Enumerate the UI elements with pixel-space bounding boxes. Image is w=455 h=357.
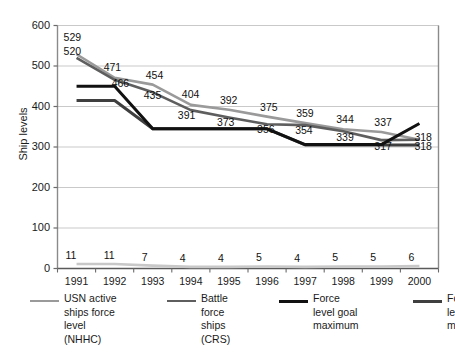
data-point-label: 317 bbox=[374, 140, 392, 152]
data-point-label: 4 bbox=[218, 252, 224, 264]
legend-label: USN active ships force level (NHHC) bbox=[64, 292, 159, 346]
series-line bbox=[77, 54, 420, 139]
legend-item[interactable]: Battle force ships (CRS) bbox=[167, 292, 271, 346]
data-point-label: 6 bbox=[408, 251, 414, 263]
y-tick-label: 200 bbox=[16, 181, 50, 193]
data-point-label: 318 bbox=[414, 140, 432, 152]
legend-item[interactable]: USN active ships force level (NHHC) bbox=[30, 292, 159, 346]
legend-swatch-icon bbox=[279, 295, 308, 305]
data-point-label: 435 bbox=[144, 89, 162, 101]
data-point-label: 11 bbox=[66, 249, 77, 261]
data-point-label: 11 bbox=[104, 249, 115, 261]
data-point-label: 5 bbox=[370, 251, 376, 263]
data-point-label: 466 bbox=[112, 77, 130, 89]
data-point-label: 404 bbox=[182, 88, 200, 100]
data-point-label: 337 bbox=[374, 116, 392, 128]
data-point-label: 520 bbox=[64, 45, 82, 57]
data-point-label: 5 bbox=[332, 251, 338, 263]
data-point-label: 354 bbox=[295, 124, 313, 136]
y-tick-label: 0 bbox=[16, 262, 50, 274]
y-tick-label: 300 bbox=[16, 140, 50, 152]
legend-label: Battle force ships (CRS) bbox=[201, 292, 271, 346]
data-point-label: 375 bbox=[260, 101, 278, 113]
data-point-label: 454 bbox=[146, 69, 164, 81]
legend-swatch-icon bbox=[167, 295, 196, 305]
data-point-label: 373 bbox=[217, 116, 235, 128]
data-point-label: 471 bbox=[104, 61, 122, 73]
data-point-label: 4 bbox=[294, 252, 300, 264]
series-line bbox=[77, 264, 420, 267]
data-point-label: 359 bbox=[296, 107, 314, 119]
legend-label: Force level goal maximum bbox=[313, 292, 405, 333]
data-point-label: 5 bbox=[256, 251, 262, 263]
data-point-label: 392 bbox=[220, 94, 238, 106]
data-point-label: 391 bbox=[178, 109, 196, 121]
legend-label: Force level goal minimum bbox=[447, 292, 455, 333]
data-point-label: 339 bbox=[336, 131, 354, 143]
x-tick-label: 2000 bbox=[396, 275, 442, 287]
y-tick-label: 500 bbox=[16, 59, 50, 71]
y-tick-label: 600 bbox=[16, 19, 50, 31]
data-point-label: 356 bbox=[257, 123, 275, 135]
data-point-label: 344 bbox=[336, 113, 354, 125]
chart-legend: USN active ships force level (NHHC)Battl… bbox=[30, 292, 450, 346]
legend-item[interactable]: Force level goal maximum bbox=[279, 292, 405, 346]
ship-levels-chart: Ship levels 0100200300400500600 19911992… bbox=[0, 0, 455, 357]
data-point-label: 7 bbox=[142, 251, 148, 263]
legend-swatch-icon bbox=[413, 295, 442, 305]
legend-item[interactable]: Force level goal minimum bbox=[413, 292, 455, 346]
y-tick-label: 100 bbox=[16, 221, 50, 233]
legend-swatch-icon bbox=[30, 295, 59, 305]
data-point-label: 529 bbox=[64, 31, 82, 43]
y-tick-label: 400 bbox=[16, 100, 50, 112]
data-point-label: 4 bbox=[180, 252, 186, 264]
